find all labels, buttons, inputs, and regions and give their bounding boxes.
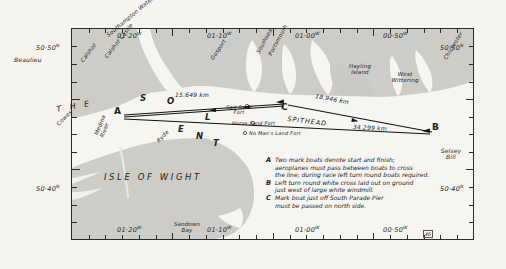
tick-left <box>72 152 77 153</box>
tick-bottom <box>89 235 90 240</box>
tick-bottom <box>223 235 224 240</box>
region-label-solent-o: O <box>167 96 174 106</box>
course-note-b: BLeft turn round white cross laid out on… <box>266 179 458 194</box>
tick-top <box>440 29 441 34</box>
longitude-label-3: 00·50W <box>383 32 408 40</box>
region-label-solent-l: L <box>205 112 210 122</box>
place-label-no-mans-land-fort: No Man's Land Fort <box>249 131 301 136</box>
tick-bottom <box>373 233 374 240</box>
tick-bottom <box>273 233 274 240</box>
course-note-line: Two mark boats denote start and finish; <box>275 156 429 164</box>
tick-left <box>72 169 80 170</box>
tick-bottom <box>290 235 291 240</box>
region-label-solent-e: E <box>178 124 184 134</box>
course-note-line: Mark boat just off South Parade Pier <box>275 194 384 202</box>
plate-number: 46 <box>423 230 433 238</box>
place-label-beaulieu: Beaulieu <box>14 57 42 63</box>
course-mark-c[interactable]: C <box>281 103 288 112</box>
tick-right <box>469 187 474 188</box>
tick-top <box>424 29 425 34</box>
longitude-label-4: 01·20W <box>117 226 142 234</box>
tick-left <box>72 222 77 223</box>
course-note-line: Left turn round white cross laid out on … <box>275 179 413 187</box>
latitude-label-0: 50·50N <box>36 44 60 52</box>
tick-bottom <box>457 235 458 240</box>
tick-bottom <box>306 235 307 240</box>
region-label-solent-s: S <box>140 93 146 103</box>
course-note-text: Mark boat just off South Parade Piermust… <box>275 194 384 209</box>
tick-bottom <box>390 235 391 240</box>
longitude-label-5: 01·10W <box>207 226 232 234</box>
course-mark-b[interactable]: B <box>432 123 439 132</box>
tick-top <box>189 29 190 34</box>
tick-bottom <box>323 235 324 240</box>
tick-left <box>72 46 77 47</box>
tick-top <box>340 29 341 34</box>
course-mark-a[interactable]: A <box>114 107 121 116</box>
region-label-solent-t: T <box>213 138 219 148</box>
course-note-c: CMark boat just off South Parade Piermus… <box>266 194 458 209</box>
tick-top <box>357 29 358 34</box>
tick-right <box>469 64 474 65</box>
place-label-hayling-island: Hayling Island <box>344 64 376 76</box>
tick-right <box>469 222 474 223</box>
tick-left <box>72 134 77 135</box>
course-notes: ATwo mark boats denote start and finish;… <box>266 156 458 210</box>
course-note-line: aeroplanes must pass between boats to cr… <box>275 164 429 172</box>
place-label-sandown-bay: Sandown Bay <box>172 222 202 234</box>
tick-bottom <box>239 235 240 240</box>
tick-left <box>72 82 77 83</box>
region-label-solent-n: N <box>196 131 203 141</box>
tick-left <box>72 64 77 65</box>
longitude-label-7: 00·50W <box>383 226 408 234</box>
leg-label-a-c: 15.649 km <box>175 92 209 98</box>
tick-left <box>72 205 77 206</box>
course-note-line: the line; during race left turn round bo… <box>275 171 429 179</box>
tick-bottom <box>139 235 140 240</box>
tick-right <box>469 134 474 135</box>
tick-right <box>469 117 474 118</box>
tick-bottom <box>105 235 106 240</box>
place-label-west-wittering: West Wittering <box>388 72 422 84</box>
tick-left <box>72 187 77 188</box>
course-note-line: just west of large white windmill. <box>275 186 413 194</box>
tick-top <box>373 29 374 36</box>
tick-bottom <box>206 235 207 240</box>
tick-top <box>290 29 291 34</box>
longitude-label-2: 01·00W <box>295 32 320 40</box>
tick-top <box>323 29 324 34</box>
tick-right <box>469 82 474 83</box>
tick-bottom <box>357 235 358 240</box>
tick-top <box>256 29 257 34</box>
tick-bottom <box>256 235 257 240</box>
course-note-a: ATwo mark boats denote start and finish;… <box>266 156 458 179</box>
tick-right <box>469 205 474 206</box>
longitude-label-1: 01·10W <box>207 32 232 40</box>
tick-top <box>89 29 90 34</box>
tick-top <box>172 29 173 36</box>
tick-right <box>469 152 474 153</box>
region-label-isle-of-wight: ISLE OF WIGHT <box>104 172 202 182</box>
place-label-horse-sand-fort: Horse Sand Fort <box>232 121 276 126</box>
tick-top <box>156 29 157 34</box>
longitude-label-6: 01·00W <box>295 226 320 234</box>
tick-bottom <box>340 235 341 240</box>
tick-bottom <box>122 235 123 240</box>
tick-bottom <box>440 235 441 240</box>
tick-bottom <box>172 233 173 240</box>
course-note-text: Two mark boats denote start and finish;a… <box>275 156 429 179</box>
tick-bottom <box>156 235 157 240</box>
tick-right <box>466 99 474 100</box>
tick-top <box>239 29 240 34</box>
place-label-spit-sand-fort: Spit Sand Fort <box>221 105 257 116</box>
tick-left <box>72 117 77 118</box>
tick-right <box>466 169 474 170</box>
latitude-label-2: 50·40N <box>36 185 60 193</box>
course-note-key: A <box>266 156 275 164</box>
course-note-key: B <box>266 179 275 187</box>
course-note-key: C <box>266 194 275 202</box>
tick-bottom <box>189 235 190 240</box>
map-figure: 50·50N50·50N50·40N50·40N01·20W01·10W01·0… <box>0 0 506 269</box>
tick-bottom <box>407 235 408 240</box>
course-note-line: must be passed on north side. <box>275 202 384 210</box>
